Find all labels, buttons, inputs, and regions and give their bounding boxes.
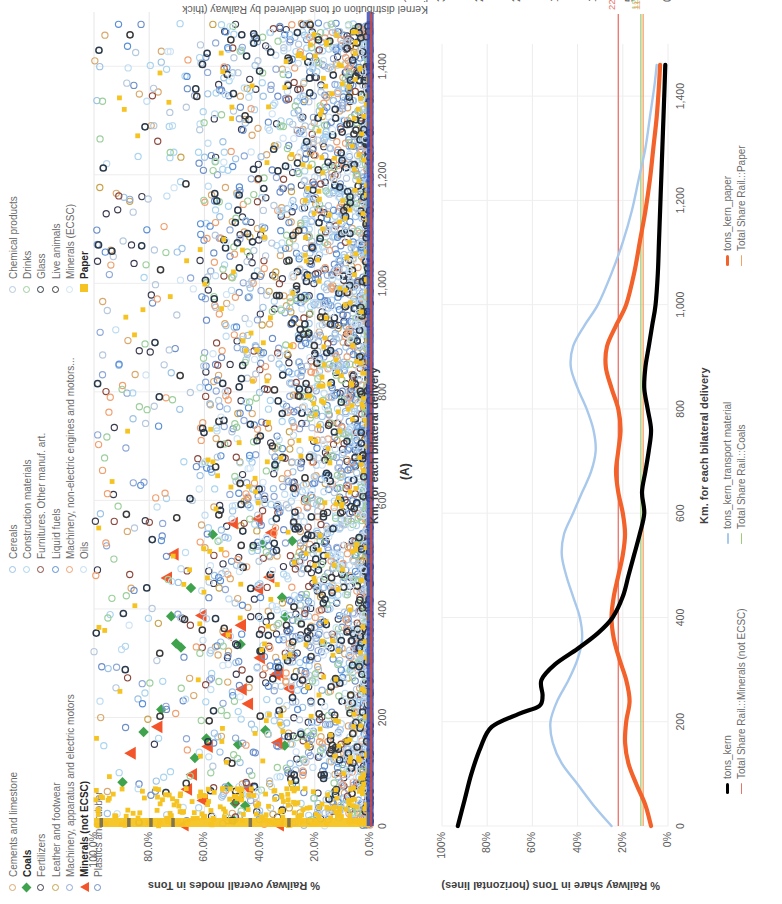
panel-a-scatter: Cements and limestone Coals Fertilizers … [0,0,392,904]
circle-open-icon [8,881,19,892]
legend-label: Furnitures. Other manuf. art. [36,433,47,559]
legend-label: Coals [22,850,33,877]
circle-open-icon [51,283,62,294]
legend-item[interactable]: Liquid fuels [51,357,62,574]
circle-open-icon [36,881,47,892]
legend-item[interactable]: Chemical products [8,196,19,294]
x-tick-label: 400 [376,595,388,623]
legend-label: Cements and limestone [8,772,19,877]
x-tick-label: 1,400 [674,82,686,110]
x-tick-label: 800 [674,395,686,423]
legend-item[interactable]: Drinks [22,196,33,294]
legend-item[interactable]: Construction materials [22,357,33,574]
line-thin-icon [736,533,747,544]
y-tick-label: 100.0% [87,832,99,868]
line-thick-icon [722,255,733,266]
x-tick-label: 400 [674,603,686,631]
legend-item[interactable]: Total Share Rail.::Minerals (not ECSC) [736,608,747,794]
panel-b-y-axis-title: % Railway share in Tons (horizontal line… [441,880,660,892]
panel-b-legend-col3: tons_kern_paper Total Share Rail.::Paper [722,145,750,266]
y2-tick-label: 10000 [586,0,598,2]
legend-label: Total Share Rail.::Minerals (not ECSC) [736,608,747,779]
legend-label: Live animals [51,223,62,279]
panel-b-plot-area [436,0,686,904]
legend-item[interactable]: tons_kern [722,608,733,794]
legend-label: Construction materials [22,460,33,559]
legend-item[interactable]: Live animals [51,196,62,294]
line-thin-icon [736,783,747,794]
y-tick-label: 20.0% [308,832,320,862]
figure-canvas: Cements and limestone Coals Fertilizers … [0,0,782,904]
legend-label: Cereals [8,525,19,559]
y-tick-label: 60% [525,832,537,853]
x-tick-label: 0 [674,812,686,840]
legend-label: Leather and footwear [51,782,62,877]
panel-a-x-axis-title: Km. for each bilateral delivery [368,367,380,524]
panel-a-legend-col3: Chemical products Drinks Glass Live anim… [8,196,93,294]
legend-item[interactable]: Cereals [8,357,19,574]
y2-tick-label: 25000 [473,0,485,2]
circle-open-icon [36,283,47,294]
panel-label-a: (A) [398,463,412,480]
legend-item[interactable]: Glass [36,196,47,294]
rotated-figure-wrapper: Cements and limestone Coals Fertilizers … [0,0,782,904]
legend-label: Drinks [22,251,33,279]
y-tick-label: 0% [661,832,673,847]
legend-item[interactable]: Machinery, non-electric engines and moto… [65,357,76,574]
legend-label: Fertilizers [36,834,47,877]
legend-item[interactable]: Furnitures. Other manuf. art. [36,357,47,574]
legend-label: tons_kern_transport material [722,402,733,529]
legend-item[interactable]: Minerals (ECSC) [65,196,76,294]
circle-open-icon [51,563,62,574]
y-tick-label: 80.0% [142,832,154,862]
legend-label: Minerals (ECSC) [65,204,76,279]
y2-tick-label: 0 [661,0,673,2]
panel-b-y2-axis-title: Kernel distribution of tons delivered by… [178,0,428,16]
legend-label: Machinery, non-electric engines and moto… [65,357,76,559]
circle-open-icon [51,881,62,892]
x-tick-label: 1,200 [376,161,388,189]
circle-open-icon [8,563,19,574]
legend-label: tons_kern [722,735,733,779]
circle-open-icon [65,563,76,574]
y2-tick-label: 30000 [435,0,447,2]
x-tick-label: 600 [674,499,686,527]
legend-item[interactable]: tons_kern_paper [722,145,733,266]
y-tick-label: 20% [616,832,628,853]
panel-a-legend-col2: Cereals Construction materials Furniture… [8,357,93,574]
circle-open-icon [22,283,33,294]
panel-b-legend-col2: tons_kern_transport material Total Share… [722,402,750,544]
circle-open-icon [65,881,76,892]
legend-item[interactable]: Total Share Rail.::Paper [736,145,747,266]
y-tick-label: 0.0% [363,832,375,856]
circle-open-icon [36,563,47,574]
legend-item[interactable]: Total Share Rail.::Coals [736,402,747,544]
panel-a-plot-area [88,0,388,904]
legend-label: Total Share Rail.::Paper [736,145,747,251]
line-thick-icon [722,783,733,794]
x-tick-label: 1,200 [674,186,686,214]
legend-item[interactable]: tons_kern_transport material [722,402,733,544]
legend-label: tons_kern_paper [722,176,733,251]
circle-open-icon [8,283,19,294]
hline-percent-label: 22% [606,0,617,10]
diamond-filled-icon [22,881,33,892]
y-tick-label: 40.0% [253,832,265,862]
legend-item[interactable]: Leather and footwear [51,694,62,892]
line-thin-icon [736,255,747,266]
legend-label: Machinery, apparatus and electric motors [65,694,76,877]
legend-item[interactable]: Machinery, apparatus and electric motors [65,694,76,892]
panel-b-legend-col1: tons_kern Total Share Rail.::Minerals (n… [722,608,750,794]
legend-item[interactable]: Cements and limestone [8,694,19,892]
x-tick-label: 200 [376,703,388,731]
panel-b-x-axis-title: Km. for each bilateral delivery [698,367,710,524]
x-tick-label: 1,000 [674,291,686,319]
y2-tick-label: 20000 [510,0,522,2]
y-tick-label: 80% [480,832,492,853]
legend-item[interactable]: Coals [22,694,33,892]
legend-item[interactable]: Fertilizers [36,694,47,892]
x-tick-label: 200 [674,708,686,736]
panel-a-y-axis-title: % Railway overall modes in Tons [148,880,320,892]
x-tick-label: 0 [376,812,388,840]
legend-label: Chemical products [8,196,19,279]
